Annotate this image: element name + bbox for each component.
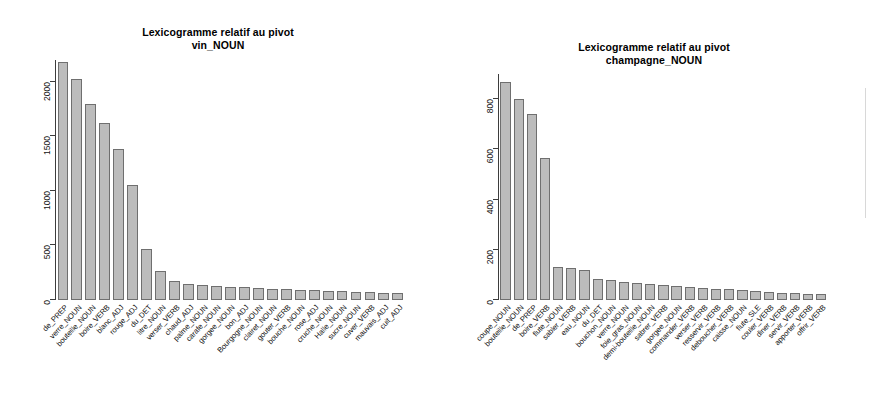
y-tick-label-vin-500: 500 <box>42 245 52 259</box>
y-tick-label-champagne-0: 0 <box>485 300 495 305</box>
bar-slot: diner_VERB <box>775 74 788 300</box>
bar-slot: rose_ADJ <box>307 60 321 300</box>
bar-slot: coupe_NOUN <box>499 74 512 300</box>
bar-slot: demi-bouteille_NOUN <box>644 74 657 300</box>
bar <box>514 99 524 300</box>
bar <box>500 82 510 300</box>
bar-slot: eau_NOUN <box>578 74 591 300</box>
bar <box>540 158 550 300</box>
bar-slot: caisse_NOUN <box>736 74 749 300</box>
bar-slot: sabler_VERB <box>565 74 578 300</box>
bar-slot: cuit_ADJ <box>391 60 405 300</box>
bar-slot: Bourgogne_NOUN <box>251 60 265 300</box>
bar-slot: cuver_VERB <box>363 60 377 300</box>
bar-slot: verser_VERB <box>168 60 182 300</box>
bar <box>579 270 589 300</box>
y-tick-label-vin-1500: 1500 <box>42 136 52 155</box>
bar-slot: gorgee_NOUN <box>223 60 237 300</box>
bar <box>593 279 603 300</box>
bar-slot: litre_NOUN <box>154 60 168 300</box>
bar-slot: du_DET <box>140 60 154 300</box>
bar <box>527 114 537 300</box>
chart-title-champagne: Lexicogramme relatif au pivot champagne_… <box>436 41 872 67</box>
bar <box>553 267 563 300</box>
plot-area-champagne: 0200400600800 coupe_NOUNbouteille_NOUNde… <box>498 74 828 300</box>
bar-slot: foie_gras_NOUN <box>631 74 644 300</box>
bar-slot: bouche_NOUN <box>293 60 307 300</box>
bar-group-vin: de_PREPverre_NOUNbouteille_NOUNboire_VER… <box>56 60 405 300</box>
y-tick-label-champagne-400: 400 <box>485 200 495 214</box>
bar-slot: verre_NOUN <box>70 60 84 300</box>
bar-slot: flute_NOUN <box>552 74 565 300</box>
bar <box>141 249 152 300</box>
bar <box>99 123 110 300</box>
bar-slot: du_DET <box>591 74 604 300</box>
bar <box>71 79 82 300</box>
y-tick-label-vin-2000: 2000 <box>42 82 52 101</box>
y-tick-label-champagne-200: 200 <box>485 250 495 264</box>
bar-slot: chaud_ADJ <box>182 60 196 300</box>
y-tick-label-champagne-800: 800 <box>485 99 495 113</box>
bar-slot: palme_NOUN <box>196 60 210 300</box>
bar-slot: sucre_NOUN <box>349 60 363 300</box>
y-tick-label-vin-0: 0 <box>42 300 52 305</box>
y-tick-label-champagne-600: 600 <box>485 149 495 163</box>
bar <box>169 281 180 300</box>
bar-slot: Halle_NOUN <box>335 60 349 300</box>
bar-slot: couler_VERB <box>762 74 775 300</box>
chart-title-vin-line1: Lexicogramme relatif au pivot <box>0 26 436 39</box>
bar-slot: gorgee_NOUN <box>670 74 683 300</box>
bar-slot: bon_ADJ <box>237 60 251 300</box>
bar-slot: bouteille_NOUN <box>512 74 525 300</box>
bar-group-champagne: coupe_NOUNbouteille_NOUNde_PREPboire_VER… <box>499 74 828 300</box>
bar <box>85 104 96 300</box>
bar <box>606 280 616 300</box>
bar-slot: flute_SLE <box>749 74 762 300</box>
bar-slot: commander_VERB <box>683 74 696 300</box>
bar-slot: sabrer_VERB <box>657 74 670 300</box>
bar <box>566 268 576 300</box>
chart-title-vin: Lexicogramme relatif au pivot vin_NOUN <box>0 26 436 52</box>
bar-slot: boire_VERB <box>538 74 551 300</box>
plot-area-vin: 0500100015002000 de_PREPverre_NOUNboutei… <box>55 60 405 300</box>
bar <box>127 185 138 300</box>
bar-slot: rouge_ADJ <box>126 60 140 300</box>
bar <box>155 271 166 300</box>
bar-slot: resservir_VERB <box>710 74 723 300</box>
bar-slot: carafe_NOUN <box>209 60 223 300</box>
chart-title-champagne-line2: champagne_NOUN <box>436 54 872 67</box>
bar <box>58 62 69 300</box>
bar-slot: apporter_VERB <box>802 74 815 300</box>
y-tick-label-vin-1000: 1000 <box>42 191 52 210</box>
bar-slot: offrir_VERB <box>815 74 828 300</box>
page-edge-artifact <box>865 88 866 218</box>
chart-title-vin-line2: vin_NOUN <box>0 39 436 52</box>
bar-slot: de_PREP <box>525 74 538 300</box>
bar-slot: de_PREP <box>56 60 70 300</box>
bar-slot: blanc_ADJ <box>112 60 126 300</box>
bar-slot: gouter_VERB <box>279 60 293 300</box>
chart-title-champagne-line1: Lexicogramme relatif au pivot <box>436 41 872 54</box>
bar-slot: verre_NOUN <box>617 74 630 300</box>
bar-slot: boire_VERB <box>98 60 112 300</box>
figure-canvas: Lexicogramme relatif au pivot vin_NOUN 0… <box>0 0 872 420</box>
bar-slot: deboucher_VERB <box>723 74 736 300</box>
bar-slot: verser_VERB <box>696 74 709 300</box>
bar-slot: bouchon_NOUN <box>604 74 617 300</box>
bar-slot: servir_VERB <box>788 74 801 300</box>
bar-slot: clairet_NOUN <box>265 60 279 300</box>
bar <box>113 149 124 300</box>
bar-slot: cruche_NOUN <box>321 60 335 300</box>
bar-slot: mauvais_ADJ <box>377 60 391 300</box>
bar-slot: bouteille_NOUN <box>84 60 98 300</box>
